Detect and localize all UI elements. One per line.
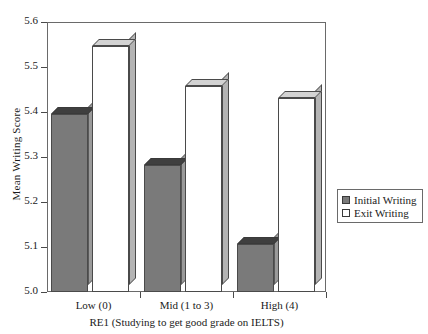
legend-label: Exit Writing	[354, 207, 409, 219]
y-tick-mark	[41, 157, 47, 158]
bar-front-face	[237, 244, 274, 292]
x-tick-mark	[326, 292, 327, 298]
bar-top-face	[144, 158, 188, 165]
bar-top-face	[185, 79, 229, 86]
bar-front-face	[144, 165, 181, 292]
bar-chart: Mean Writing Score 5.05.15.25.35.45.55.6…	[0, 0, 428, 334]
bar-initial-writing	[144, 165, 181, 292]
y-tick-label: 5.2	[8, 194, 38, 206]
legend-item[interactable]: Initial Writing	[342, 193, 417, 206]
bar-side-face	[129, 32, 136, 285]
bar-front-face	[185, 86, 222, 292]
y-tick-mark	[41, 22, 47, 23]
legend-swatch-icon	[342, 209, 350, 217]
x-tick-mark	[233, 292, 234, 298]
legend-swatch-icon	[342, 196, 350, 204]
bar-side-face	[222, 72, 229, 285]
bar-initial-writing	[237, 244, 274, 292]
x-tick-label: High (4)	[225, 299, 335, 311]
y-tick-label: 5.3	[8, 149, 38, 161]
y-tick-mark	[41, 202, 47, 203]
y-tick-mark	[41, 247, 47, 248]
x-tick-mark	[140, 292, 141, 298]
bar-top-face	[278, 91, 322, 98]
bar-exit-writing	[185, 86, 222, 292]
legend-item[interactable]: Exit Writing	[342, 206, 417, 219]
bar-front-face	[51, 114, 88, 292]
y-tick-mark	[41, 67, 47, 68]
y-tick-label: 5.5	[8, 59, 38, 71]
y-tick-label: 5.6	[8, 14, 38, 26]
legend-label: Initial Writing	[354, 194, 417, 206]
y-tick-mark	[41, 292, 47, 293]
bar-top-face	[237, 237, 281, 244]
bar-top-face	[92, 39, 136, 46]
bar-front-face	[278, 98, 315, 292]
bar-exit-writing	[278, 98, 315, 292]
bar-side-face	[315, 84, 322, 285]
bar-initial-writing	[51, 114, 88, 292]
legend: Initial WritingExit Writing	[337, 189, 423, 223]
y-tick-label: 5.0	[8, 284, 38, 296]
bar-front-face	[92, 46, 129, 292]
y-tick-label: 5.1	[8, 239, 38, 251]
y-tick-label: 5.4	[8, 104, 38, 116]
y-tick-mark	[41, 112, 47, 113]
bar-top-face	[51, 107, 95, 114]
x-axis-title: RE1 (Studying to get good grade on IELTS…	[47, 316, 326, 328]
bar-exit-writing	[92, 46, 129, 292]
